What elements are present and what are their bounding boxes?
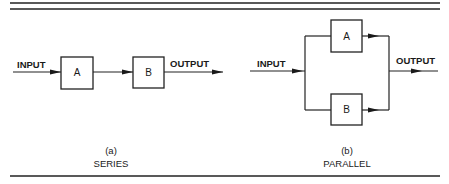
series-parallel-diagram: INPUT A B OUTPUT (a) SERIES INPUT A B <box>0 0 449 184</box>
arrow-icon <box>368 108 379 113</box>
series-block-b-label: B <box>145 67 152 78</box>
series-input-label: INPUT <box>17 59 46 70</box>
arrow-icon <box>292 69 303 74</box>
parallel-output-label: OUTPUT <box>396 55 435 66</box>
arrow-icon <box>50 70 61 75</box>
series-caption-title: SERIES <box>94 158 129 169</box>
parallel-input-label: INPUT <box>257 58 286 69</box>
arrow-icon <box>122 70 133 75</box>
series-diagram: INPUT A B OUTPUT (a) SERIES <box>13 57 223 169</box>
parallel-caption-letter: (b) <box>341 145 353 156</box>
arrow-icon <box>411 69 422 74</box>
parallel-diagram: INPUT A B OUTPUT (b) PARALLEL <box>250 20 438 169</box>
arrow-icon <box>212 70 223 75</box>
parallel-caption-title: PARALLEL <box>323 158 370 169</box>
parallel-block-a-label: A <box>343 31 350 42</box>
series-output-label: OUTPUT <box>170 58 209 69</box>
parallel-block-b-label: B <box>343 104 350 115</box>
series-block-a-label: A <box>74 67 81 78</box>
series-caption-letter: (a) <box>105 145 117 156</box>
arrow-icon <box>368 34 379 39</box>
